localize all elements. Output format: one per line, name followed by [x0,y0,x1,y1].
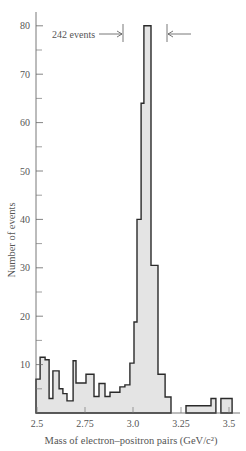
x-tick-label: 2.5 [31,418,44,429]
y-axis-title: Number of events [6,202,17,277]
histogram-bars [36,26,232,413]
x-tick-label: 3.0 [127,418,140,429]
histogram-chart: 10203040506070802.52.753.03.253.5 242 ev… [0,0,246,451]
x-tick-label: 3.5 [223,418,236,429]
x-axis-title: Mass of electron–positron pairs (GeV/c²) [45,435,218,447]
x-tick-label: 3.25 [172,418,190,429]
y-tick-label: 10 [20,359,30,370]
y-tick-label: 60 [20,117,30,128]
y-tick-label: 30 [20,262,30,273]
y-tick-label: 20 [20,311,30,322]
histogram-bin-group [36,26,171,413]
x-tick-label: 2.75 [76,418,94,429]
y-tick-label: 50 [20,166,30,177]
y-tick-label: 80 [20,20,30,31]
histogram-bin-group [186,399,216,414]
y-tick-label: 40 [20,214,30,225]
y-tick-label: 70 [20,69,30,80]
annotation-242-events: 242 events [52,24,191,42]
annotation-label: 242 events [52,29,95,40]
histogram-bin-group [221,399,232,414]
